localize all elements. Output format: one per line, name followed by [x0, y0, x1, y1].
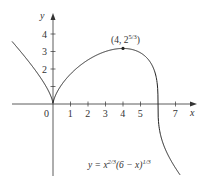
- x-tick-label: 5: [138, 108, 143, 119]
- equation-mid: (6 − x): [116, 160, 142, 171]
- equation-annotation: y = x2/3(6 − x)1/3: [87, 158, 151, 171]
- y-axis-arrow-icon: [51, 13, 56, 20]
- x-tick-label: 7: [173, 108, 178, 119]
- y-tick-label: 4: [42, 29, 47, 40]
- max-point-annotation: (4, 25/3): [111, 33, 140, 46]
- x-tick-label: 1: [68, 108, 73, 119]
- x-axis-arrow-icon: [190, 102, 197, 107]
- x-axis-label: x: [189, 107, 195, 118]
- y-tick-label: 3: [42, 46, 47, 57]
- equation-pre: y = x: [87, 160, 108, 170]
- x-tick-label: 4: [120, 108, 125, 119]
- ticks: 123457234: [42, 29, 178, 120]
- max-point-base: (4, 2: [111, 35, 129, 46]
- x-tick-label: 2: [85, 108, 90, 119]
- maximum-point-marker: [121, 47, 124, 50]
- max-point-close: ): [137, 35, 140, 46]
- function-curve: [12, 41, 180, 174]
- chart: 123457234 y x 0 (4, 25/3) y = x2/3(6 − x…: [0, 0, 205, 180]
- equation-exp2: 1/3: [142, 158, 151, 165]
- y-tick-label: 2: [42, 64, 47, 75]
- max-point-exponent: 5/3: [128, 33, 136, 40]
- axes: [12, 13, 197, 176]
- y-axis-label: y: [39, 10, 45, 21]
- origin-label: 0: [44, 108, 49, 119]
- x-tick-label: 3: [103, 108, 108, 119]
